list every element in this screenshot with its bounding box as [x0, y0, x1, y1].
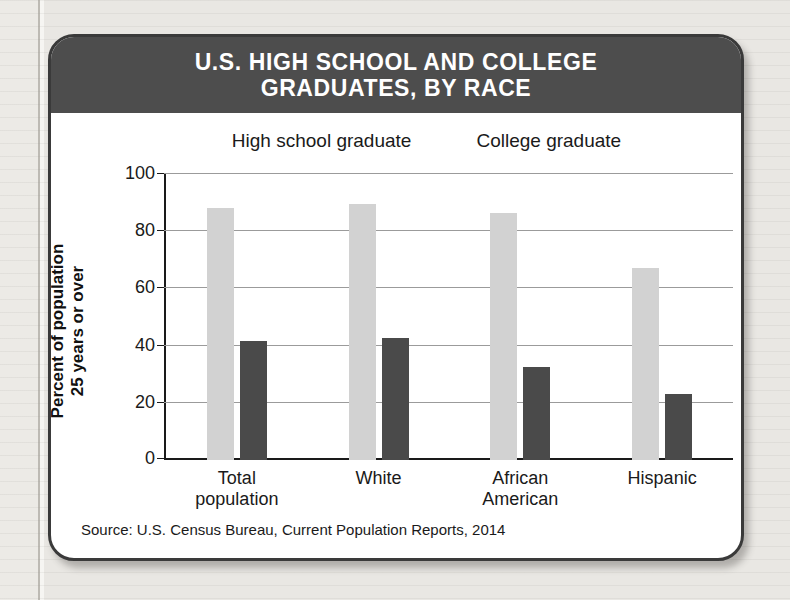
x-axis-label-line: Total: [166, 468, 308, 489]
figure-card: U.S. HIGH SCHOOL AND COLLEGE GRADUATES, …: [48, 34, 744, 561]
legend-swatch-college-graduate: [445, 131, 465, 151]
x-axis-label: White: [308, 468, 450, 510]
y-tick-label-20: 20: [135, 391, 155, 412]
chart-title-banner: U.S. HIGH SCHOOL AND COLLEGE GRADUATES, …: [51, 37, 741, 113]
bar: [207, 208, 234, 460]
y-axis-title-line-1: Percent of population: [48, 206, 68, 456]
chart-legend: High school graduate College graduate: [51, 130, 741, 152]
x-axis-labels: TotalpopulationWhiteAfricanAmericanHispa…: [166, 468, 733, 510]
y-tick-label-40: 40: [135, 334, 155, 355]
chart-source: Source: U.S. Census Bureau, Current Popu…: [81, 521, 505, 538]
plot-area: 020406080100: [164, 174, 733, 460]
x-axis-label: AfricanAmerican: [450, 468, 592, 510]
y-axis-title: Percent of population 25 years or over: [48, 206, 88, 456]
y-tick-mark-20: [157, 402, 164, 403]
y-tick-mark-100: [157, 173, 164, 174]
bar-group: [591, 174, 733, 460]
chart-title: U.S. HIGH SCHOOL AND COLLEGE GRADUATES, …: [195, 49, 598, 101]
legend-item-high-school-graduate: High school graduate: [201, 130, 412, 152]
y-tick-label-0: 0: [145, 448, 155, 469]
x-axis-label-line: White: [308, 468, 450, 489]
chart-title-line-2: GRADUATES, BY RACE: [261, 75, 532, 101]
bar-group: [166, 174, 308, 460]
bar: [490, 213, 517, 460]
y-tick-mark-40: [157, 345, 164, 346]
plot-wrapper: Percent of population 25 years or over 0…: [51, 166, 741, 496]
bar: [240, 341, 267, 460]
x-axis-label: Totalpopulation: [166, 468, 308, 510]
x-axis-label: Hispanic: [591, 468, 733, 510]
x-axis-label-line: African: [450, 468, 592, 489]
bar: [665, 394, 692, 460]
x-axis-label-line: American: [450, 489, 592, 510]
bar: [349, 204, 376, 460]
y-tick-mark-80: [157, 230, 164, 231]
y-tick-label-100: 100: [125, 163, 155, 184]
x-axis-label-line: Hispanic: [591, 468, 733, 489]
y-tick-mark-60: [157, 287, 164, 288]
bar: [523, 367, 550, 460]
legend-item-college-graduate: College graduate: [445, 130, 621, 152]
legend-label-college-graduate: College graduate: [476, 130, 621, 152]
legend-label-high-school-graduate: High school graduate: [232, 130, 412, 152]
bar: [632, 268, 659, 460]
y-tick-label-80: 80: [135, 220, 155, 241]
bar: [382, 338, 409, 460]
chart-title-line-1: U.S. HIGH SCHOOL AND COLLEGE: [195, 49, 598, 75]
bar-group: [450, 174, 592, 460]
y-tick-label-60: 60: [135, 277, 155, 298]
y-axis-title-line-2: 25 years or over: [68, 206, 88, 456]
x-axis-label-line: population: [166, 489, 308, 510]
legend-swatch-high-school-graduate: [201, 131, 221, 151]
y-tick-mark-0: [157, 458, 164, 459]
bars-layer: [166, 174, 733, 460]
bar-group: [308, 174, 450, 460]
